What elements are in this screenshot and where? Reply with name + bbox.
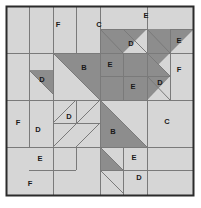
quilt-block-diagram: FCEEDBEFDEDFDDBCEEDF — [0, 0, 201, 208]
quilt-block-canvas: FCEEDBEFDEDFDDBCEEDF — [0, 0, 201, 208]
